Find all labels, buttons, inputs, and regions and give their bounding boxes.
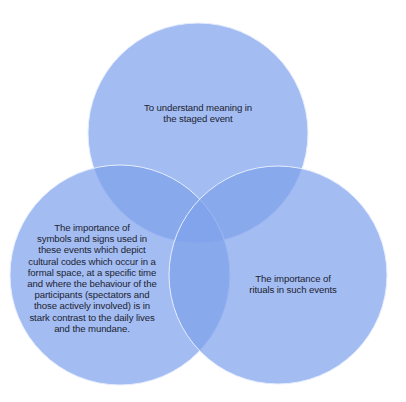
label-line: To understand meaning in xyxy=(128,102,268,113)
label-top-circle: To understand meaning in the staged even… xyxy=(128,102,268,124)
venn-diagram: To understand meaning in the staged even… xyxy=(0,0,406,402)
label-right-circle: The importance of rituals in such events xyxy=(238,273,348,295)
label-line: formal space, at a specific time xyxy=(22,267,162,278)
label-line: those actively involved) is in xyxy=(22,300,162,311)
label-line: stark contrast to the daily lives xyxy=(22,312,162,323)
label-line: these events which depict xyxy=(22,244,162,255)
label-line: The importance of xyxy=(238,273,348,284)
venn-circles xyxy=(0,0,406,402)
label-line: cultural codes which occur in a xyxy=(22,256,162,267)
label-line: The importance of xyxy=(22,222,162,233)
label-line: participants (spectators and xyxy=(22,289,162,300)
label-line: rituals in such events xyxy=(238,284,348,295)
label-line: and where the behaviour of the xyxy=(22,278,162,289)
label-left-circle: The importance of symbols and signs used… xyxy=(22,222,162,334)
label-line: symbols and signs used in xyxy=(22,233,162,244)
label-line: the staged event xyxy=(128,113,268,124)
label-line: and the mundane. xyxy=(22,323,162,334)
